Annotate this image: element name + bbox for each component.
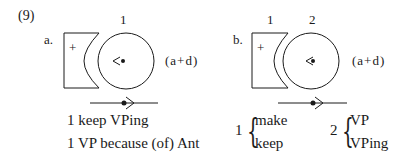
group-1-option-2: keep — [255, 135, 283, 152]
group-2-option-1: VP — [350, 112, 369, 129]
panel-a-line-1: 1 keep VPing — [67, 112, 148, 129]
group-1-option-1: make — [255, 112, 287, 129]
panel-a-shapes — [64, 33, 158, 109]
panel-b-shapes — [252, 33, 347, 109]
group-2-index: 2 — [330, 122, 338, 139]
arrow-dot-a — [122, 101, 127, 106]
panel-b-index-2: 2 — [309, 12, 316, 28]
panel-a-index-1: 1 — [120, 12, 127, 28]
panel-b-label: b. — [233, 32, 243, 48]
panel-a-label: a. — [44, 32, 53, 48]
panel-b-annotation: (a+d) — [352, 53, 385, 69]
arrow-dot-b — [311, 101, 316, 106]
dot-a — [121, 59, 125, 63]
panel-a-plus: + — [69, 40, 76, 56]
example-number: (9) — [18, 8, 34, 24]
panel-b-plus: + — [257, 40, 264, 56]
dot-b — [311, 59, 315, 63]
group-1-index: 1 — [235, 122, 243, 139]
panel-b-index-1: 1 — [267, 12, 274, 28]
panel-a-annotation: (a+d) — [165, 53, 198, 69]
chevron-left-icon-a — [113, 57, 120, 65]
circle-a — [98, 33, 154, 89]
group-2-option-2: VPing — [350, 135, 388, 152]
panel-a-line-2: 1 VP because (of) Ant — [67, 135, 199, 152]
